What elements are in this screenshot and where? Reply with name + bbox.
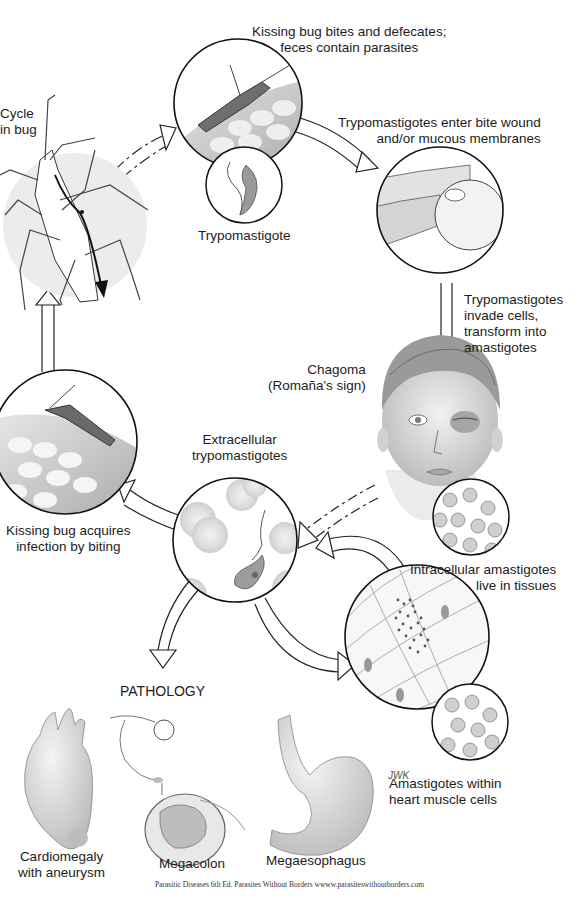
label-line: Extracellular	[192, 432, 287, 448]
label-megacolon: Megacolon	[159, 856, 225, 872]
acquire-circle-illustration	[0, 370, 140, 520]
label-line: amastigotes	[464, 340, 563, 356]
label-trypomastigote: Trypomastigote	[198, 228, 291, 244]
label-line: Cycle	[0, 106, 37, 122]
label-line: transform into	[464, 324, 563, 340]
label-line: invade cells,	[464, 308, 563, 324]
label-line: trypomastigotes	[192, 448, 287, 464]
label-line: live in tissues	[410, 578, 556, 594]
label-line: feces contain parasites	[252, 40, 446, 56]
label-line: Kissing bug bites and defecates;	[252, 24, 446, 40]
credit-line: Parasitic Diseases 6th Ed. Parasites Wit…	[0, 880, 579, 889]
heart-aneurysm-illustration	[25, 709, 93, 849]
extracellular-circle-illustration	[173, 473, 308, 612]
trypomastigote-circle	[206, 147, 282, 223]
label-megaesophagus: Megaesophagus	[266, 853, 366, 869]
label-entry: Trypomastigotes enter bite wound and/or …	[338, 115, 541, 147]
label-extracellular: Extracellular trypomastigotes	[192, 432, 287, 464]
label-line: heart muscle cells	[389, 792, 502, 808]
label-bite: Kissing bug bites and defecates; feces c…	[252, 24, 446, 56]
label-line: infection by biting	[6, 539, 131, 555]
label-acquire: Kissing bug acquires infection by biting	[6, 523, 131, 555]
label-cardiomegaly: Cardiomegaly with aneurysm	[18, 849, 105, 881]
label-line: in bug	[0, 122, 37, 138]
label-line: and/or mucous membranes	[338, 131, 541, 147]
label-line: (Romaña's sign)	[268, 378, 366, 394]
label-heart-cells: Amastigotes within heart muscle cells	[389, 776, 502, 808]
label-line: Amastigotes within	[389, 776, 502, 792]
intracellular-circle-illustration	[433, 479, 509, 557]
entry-circle-illustration	[360, 147, 505, 273]
label-line: Cardiomegaly	[18, 849, 105, 865]
label-line: Chagoma	[268, 362, 366, 378]
heart-cells-zoom-circle	[432, 684, 508, 760]
label-line: Intracellular amastigotes	[410, 562, 556, 578]
megaesophagus-illustration	[270, 715, 373, 855]
label-intracellular: Intracellular amastigotes live in tissue…	[410, 562, 556, 594]
label-line: Trypomastigotes	[464, 292, 563, 308]
label-invade: Trypomastigotes invade cells, transform …	[464, 292, 563, 356]
label-line: Kissing bug acquires	[6, 523, 131, 539]
label-line: Trypomastigotes enter bite wound	[338, 115, 541, 131]
pathology-heading: PATHOLOGY	[120, 683, 205, 699]
megacolon-illustration	[110, 716, 245, 866]
label-line: with aneurysm	[18, 865, 105, 881]
label-cycle-in-bug: Cycle in bug	[0, 106, 37, 138]
label-chagoma: Chagoma (Romaña's sign)	[268, 362, 366, 394]
